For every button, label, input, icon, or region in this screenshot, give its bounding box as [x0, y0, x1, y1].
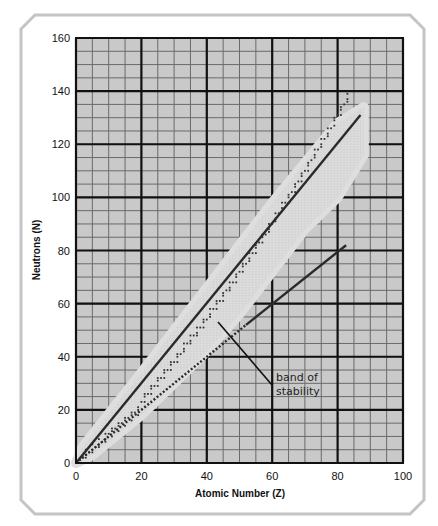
x-tick-label: 0 [73, 470, 79, 482]
y-axis-title: Neutrons (N) [31, 220, 42, 281]
y-tick-label: 100 [52, 191, 70, 203]
y-tick-label: 160 [52, 32, 70, 44]
annotation-band-of-stability-line2: stability [276, 385, 320, 398]
y-tick-label: 60 [58, 298, 70, 310]
chart: Neutrons (N) Atomic Number (Z) 020406080… [0, 0, 438, 526]
x-tick-label: 60 [266, 470, 278, 482]
x-tick-label: 20 [135, 470, 147, 482]
x-tick-label: 80 [331, 470, 343, 482]
x-axis-title: Atomic Number (Z) [195, 488, 285, 499]
annotation-band-of-stability-line1: band of [276, 371, 319, 384]
y-tick-label: 0 [64, 457, 70, 469]
x-tick-label: 100 [394, 470, 412, 482]
y-tick-label: 120 [52, 138, 70, 150]
y-tick-label: 140 [52, 85, 70, 97]
y-tick-label: 20 [58, 404, 70, 416]
plot-area [76, 38, 403, 463]
x-tick-label: 40 [201, 470, 213, 482]
y-tick-label: 80 [58, 245, 70, 257]
y-tick-label: 40 [58, 351, 70, 363]
